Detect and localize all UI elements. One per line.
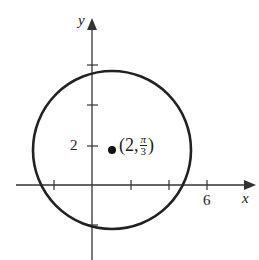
pi-over-3-fraction: π 3 (140, 134, 148, 157)
x-tick-label-6: 6 (203, 192, 211, 209)
center-point (108, 146, 116, 154)
point-label-suffix: ) (148, 135, 154, 156)
x-axis-label: x (242, 190, 249, 207)
point-label-prefix: (2, (119, 135, 139, 156)
y-tick-label-2: 2 (70, 137, 78, 154)
y-axis-label: y (78, 12, 85, 29)
polar-circle-diagram (0, 0, 259, 260)
y-axis-arrow-icon (87, 18, 97, 30)
x-axis-arrow-icon (244, 180, 256, 190)
point-label: (2, π 3 ) (119, 134, 154, 157)
